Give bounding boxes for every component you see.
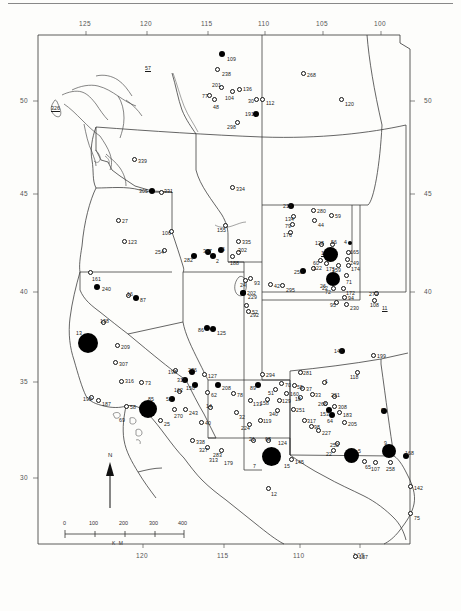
map-point-227[interactable] <box>316 428 321 433</box>
map-point-268[interactable] <box>301 71 306 76</box>
map-point-157[interactable] <box>353 554 358 559</box>
map-point-251[interactable] <box>291 407 296 412</box>
map-point-label-338: 338 <box>196 439 205 445</box>
map-point-71[interactable] <box>344 273 349 278</box>
map-point-label-93: 93 <box>254 280 260 286</box>
map-point-294[interactable] <box>260 372 265 377</box>
map-point-40[interactable] <box>199 420 204 425</box>
map-point-33[interactable] <box>310 392 315 397</box>
map-point-270[interactable] <box>172 407 177 412</box>
map-point-209[interactable] <box>115 343 120 348</box>
map-point-label-22: 22 <box>326 451 332 457</box>
map-point-62[interactable] <box>205 390 210 395</box>
map-point-281[interactable] <box>298 370 303 375</box>
map-point-187[interactable] <box>96 398 101 403</box>
map-point-78[interactable] <box>231 391 236 396</box>
compass-label: N <box>108 452 112 458</box>
map-point-30[interactable] <box>254 97 259 102</box>
map-point-98[interactable] <box>309 424 314 429</box>
map-point-55[interactable] <box>292 383 297 388</box>
map-point-12[interactable] <box>266 486 271 491</box>
map-point-72[interactable] <box>331 286 336 291</box>
map-point-240[interactable] <box>94 284 100 290</box>
map-point-13[interactable] <box>78 333 98 353</box>
map-point-243[interactable] <box>183 407 188 412</box>
map-point-188[interactable] <box>230 254 235 259</box>
map-point-335[interactable] <box>236 239 241 244</box>
map-point-124[interactable] <box>262 447 281 466</box>
map-point-307[interactable] <box>113 360 118 365</box>
map-point-58[interactable] <box>124 404 129 409</box>
map-point-174[interactable] <box>346 263 351 268</box>
map-point-label-89: 89 <box>250 385 256 391</box>
map-point-25[interactable] <box>158 418 163 423</box>
map-point-73[interactable] <box>139 380 144 385</box>
map-point-label-4: 4 <box>344 239 347 245</box>
map-point-160[interactable] <box>284 391 289 396</box>
map-point-112[interactable] <box>260 97 265 102</box>
map-point-145[interactable] <box>289 457 294 462</box>
map-point-127[interactable] <box>202 372 207 377</box>
map-point-172[interactable] <box>341 286 346 291</box>
map-point-75[interactable] <box>408 511 413 516</box>
map-point-295[interactable] <box>280 283 285 288</box>
map-point-59[interactable] <box>329 213 334 218</box>
ytick-left-1: 45 <box>20 190 28 197</box>
map-point-125[interactable] <box>210 326 216 332</box>
map-point-161[interactable] <box>88 270 93 275</box>
map-point-label-227: 227 <box>322 430 331 436</box>
map-point-120[interactable] <box>339 97 344 102</box>
map-point-42[interactable] <box>268 282 273 287</box>
map-point-label-21: 21 <box>249 436 255 442</box>
map-point-44[interactable] <box>312 218 317 223</box>
map-point-208[interactable] <box>215 382 221 388</box>
map-point-199[interactable] <box>371 353 376 358</box>
map-point-175[interactable] <box>324 261 329 266</box>
map-point-label-327: 327 <box>199 447 208 453</box>
map-point-230[interactable] <box>344 302 349 307</box>
map-point-5[interactable] <box>344 448 359 463</box>
map-point-104[interactable] <box>230 89 235 94</box>
map-point-123[interactable] <box>122 239 127 244</box>
map-point-339[interactable] <box>132 157 137 162</box>
map-point-65[interactable] <box>362 459 367 464</box>
map-point-93[interactable] <box>248 276 253 281</box>
map-point-131[interactable] <box>248 398 253 403</box>
map-point-249[interactable] <box>345 257 350 262</box>
map-point-317[interactable] <box>302 418 307 423</box>
map-point-308[interactable] <box>332 404 337 409</box>
map-point-305[interactable] <box>149 188 155 194</box>
map-point-label-251: 251 <box>296 407 305 413</box>
map-point-22[interactable] <box>323 247 338 262</box>
map-point-316[interactable] <box>119 379 124 384</box>
map-point-136[interactable] <box>237 87 242 92</box>
map-point-label-86: 86 <box>198 327 204 333</box>
map-point-183[interactable] <box>337 410 342 415</box>
map-point-258[interactable] <box>388 460 393 465</box>
map-point-229[interactable] <box>240 290 246 296</box>
map-point-280[interactable] <box>311 208 316 213</box>
map-point-85[interactable] <box>139 400 157 418</box>
map-point-107[interactable] <box>373 460 378 465</box>
map-point-129[interactable] <box>277 398 282 403</box>
map-point-94[interactable] <box>342 295 347 300</box>
map-point-292[interactable] <box>244 303 249 308</box>
map-point-338[interactable] <box>190 438 195 443</box>
map-point-27[interactable] <box>116 218 121 223</box>
map-point-205[interactable] <box>342 420 347 425</box>
map-point-142[interactable] <box>408 484 413 489</box>
scale-tick-4: 400 <box>178 520 187 526</box>
map-point-label-188: 188 <box>230 260 239 266</box>
map-point-70[interactable] <box>279 381 284 386</box>
map-point-334[interactable] <box>230 185 235 190</box>
map-point-label-120: 120 <box>345 101 354 107</box>
map-point-87[interactable] <box>133 295 139 301</box>
map-point-label-122: 122 <box>313 265 322 271</box>
map-point-331[interactable] <box>159 190 164 195</box>
map-point-9[interactable] <box>382 444 396 458</box>
map-point-32[interactable] <box>234 410 239 415</box>
map-point-119[interactable] <box>258 418 263 423</box>
map-point-26[interactable] <box>326 272 340 286</box>
map-point-238[interactable] <box>215 67 220 72</box>
map-point-48[interactable] <box>212 97 217 102</box>
